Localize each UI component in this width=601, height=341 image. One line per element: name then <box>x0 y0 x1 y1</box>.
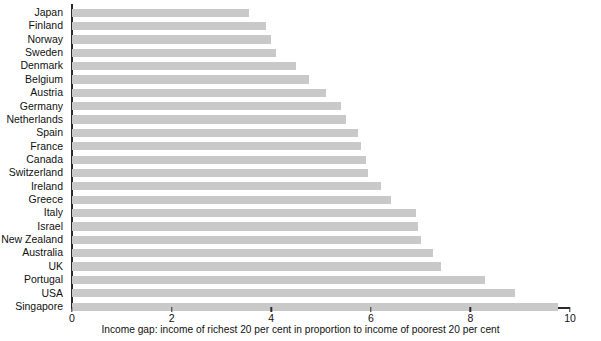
x-tick-mark <box>370 307 371 312</box>
bar <box>72 102 341 110</box>
category-label: Ireland <box>0 180 68 193</box>
bar-row <box>72 100 570 113</box>
category-label: Denmark <box>0 59 68 72</box>
category-label: Netherlands <box>0 113 68 126</box>
category-label: Belgium <box>0 73 68 86</box>
x-tick-label: 6 <box>368 312 374 324</box>
category-label: Finland <box>0 19 68 32</box>
bar <box>72 289 515 297</box>
bar <box>72 75 309 83</box>
bar <box>72 35 271 43</box>
category-label: Austria <box>0 86 68 99</box>
bar-row <box>72 287 570 300</box>
category-label: Canada <box>0 153 68 166</box>
category-label: Italy <box>0 206 68 219</box>
bar <box>72 222 418 230</box>
bar-row <box>72 180 570 193</box>
bar-row <box>72 6 570 19</box>
bar <box>72 129 358 137</box>
category-label: Greece <box>0 193 68 206</box>
bar <box>72 209 416 217</box>
bar-row <box>72 126 570 139</box>
category-label: Switzerland <box>0 166 68 179</box>
bar <box>72 156 366 164</box>
x-tick-mark <box>171 307 172 312</box>
bar <box>72 276 485 284</box>
bar <box>72 236 421 244</box>
bar-row <box>72 73 570 86</box>
x-tick-label: 2 <box>169 312 175 324</box>
bar <box>72 196 391 204</box>
bar-row <box>72 59 570 72</box>
bar <box>72 22 266 30</box>
bar-row <box>72 46 570 59</box>
category-label: Australia <box>0 246 68 259</box>
bar <box>72 169 368 177</box>
x-tick-mark <box>270 307 271 312</box>
bar <box>72 62 296 70</box>
bar-row <box>72 33 570 46</box>
x-tick-label: 0 <box>69 312 75 324</box>
category-label: New Zealand <box>0 233 68 246</box>
bar <box>72 49 276 57</box>
category-label: Singapore <box>0 300 68 313</box>
x-tick-label: 4 <box>268 312 274 324</box>
category-label: Germany <box>0 100 68 113</box>
category-label: Portugal <box>0 273 68 286</box>
bar-row <box>72 273 570 286</box>
bar-row <box>72 86 570 99</box>
bar-row <box>72 220 570 233</box>
bar-rows <box>72 6 570 304</box>
bar <box>72 182 381 190</box>
bar-row <box>72 19 570 32</box>
category-label: UK <box>0 260 68 273</box>
bar <box>72 249 433 257</box>
x-tick-mark <box>71 307 72 312</box>
bar-row <box>72 193 570 206</box>
bar <box>72 262 441 270</box>
category-axis-labels: JapanFinlandNorwaySwedenDenmarkBelgiumAu… <box>0 6 68 304</box>
category-label: Israel <box>0 220 68 233</box>
bar <box>72 9 249 17</box>
bar-row <box>72 113 570 126</box>
income-gap-bar-chart: JapanFinlandNorwaySwedenDenmarkBelgiumAu… <box>0 0 601 341</box>
category-label: USA <box>0 287 68 300</box>
category-label: Norway <box>0 33 68 46</box>
x-tick-mark <box>470 307 471 312</box>
x-tick-mark <box>569 307 570 312</box>
bar-row <box>72 233 570 246</box>
x-tick-label: 10 <box>564 312 576 324</box>
plot-area <box>72 6 570 304</box>
x-axis-caption: Income gap: income of richest 20 per cen… <box>0 324 601 335</box>
category-label: Spain <box>0 126 68 139</box>
bar-row <box>72 246 570 259</box>
category-label: Japan <box>0 6 68 19</box>
bar-row <box>72 140 570 153</box>
bar <box>72 142 361 150</box>
bar-row <box>72 206 570 219</box>
bar <box>72 89 326 97</box>
x-tick-label: 8 <box>467 312 473 324</box>
bar-row <box>72 260 570 273</box>
bar-row <box>72 166 570 179</box>
category-label: Sweden <box>0 46 68 59</box>
bar-row <box>72 153 570 166</box>
category-label: France <box>0 140 68 153</box>
bar <box>72 115 346 123</box>
